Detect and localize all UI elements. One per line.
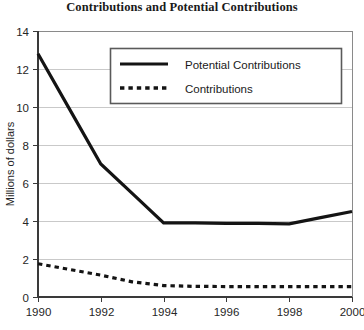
y-tick-label: 10 xyxy=(16,102,29,114)
x-tick-label: 2000 xyxy=(340,306,364,318)
y-axis-title: Millions of dollars xyxy=(4,121,16,206)
legend-label-contributions: Contributions xyxy=(185,83,253,95)
x-tick-label: 1992 xyxy=(89,306,115,318)
x-tick-label: 1994 xyxy=(152,306,178,318)
y-tick-label: 12 xyxy=(16,64,29,76)
y-tick-label: 0 xyxy=(23,292,29,304)
y-axis-ticks: 02468101214 xyxy=(16,26,38,304)
x-tick-label: 1998 xyxy=(277,306,303,318)
y-tick-label: 2 xyxy=(23,254,29,266)
x-axis-ticks: 199019921994199619982000 xyxy=(26,297,364,318)
x-tick-label: 1996 xyxy=(214,306,240,318)
legend-box xyxy=(111,49,342,104)
y-tick-label: 6 xyxy=(23,178,29,190)
y-tick-label: 14 xyxy=(16,26,29,38)
chart-legend: Potential Contributions Contributions xyxy=(111,49,342,104)
line-chart-plot: 02468101214 199019921994199619982000 Mil… xyxy=(0,0,364,330)
y-tick-label: 4 xyxy=(23,216,30,228)
x-tick-label: 1990 xyxy=(26,306,52,318)
chart-container: Contributions and Potential Contribution… xyxy=(0,0,364,330)
legend-label-potential-contributions: Potential Contributions xyxy=(185,59,301,71)
y-axis-title-text: Millions of dollars xyxy=(4,121,16,206)
series-contributions-line xyxy=(38,264,352,287)
y-tick-label: 8 xyxy=(23,140,29,152)
